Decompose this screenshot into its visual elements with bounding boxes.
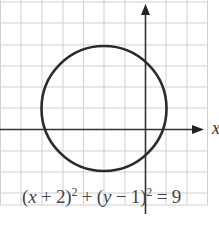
x-axis: [0, 125, 204, 134]
eq-y-variable: y: [103, 186, 111, 207]
x-axis-arrow-icon: [192, 125, 204, 134]
equation-label: (x + 2)2 + (y − 1)2 = 9: [22, 185, 207, 207]
grid: [0, 0, 208, 205]
y-axis-arrow-icon: [141, 4, 150, 15]
eq-minus-one: − 1): [111, 186, 146, 207]
x-axis-label: x: [212, 118, 219, 139]
eq-rhs: = 9: [152, 186, 181, 207]
y-axis: [141, 4, 150, 214]
eq-middle: + (: [77, 186, 103, 207]
eq-plus-two: + 2): [36, 186, 71, 207]
